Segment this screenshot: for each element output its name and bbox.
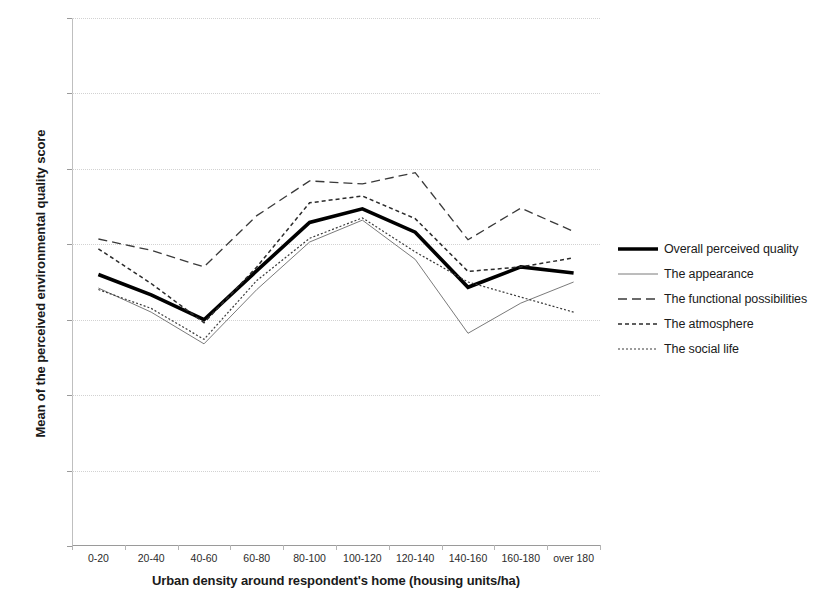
x-tick-label: over 180 xyxy=(534,552,614,564)
legend-item[interactable]: The functional possibilities xyxy=(618,286,833,311)
legend-label: The functional possibilities xyxy=(664,292,807,306)
series-lines xyxy=(72,18,600,546)
chart-figure: Mean of the perceived environmental qual… xyxy=(0,0,833,601)
legend-line-swatch-icon xyxy=(618,243,658,255)
legend-line-swatch-icon xyxy=(618,293,658,305)
legend-item[interactable]: The social life xyxy=(618,336,833,361)
series-line xyxy=(98,173,573,267)
legend-label: Overall perceived quality xyxy=(664,242,798,256)
legend-item[interactable]: The atmosphere xyxy=(618,311,833,336)
chart-legend: Overall perceived qualityThe appearanceT… xyxy=(618,236,833,361)
legend-line-swatch-icon xyxy=(618,318,658,330)
legend-item[interactable]: Overall perceived quality xyxy=(618,236,833,261)
legend-item[interactable]: The appearance xyxy=(618,261,833,286)
legend-label: The social life xyxy=(664,342,739,356)
x-tick-mark xyxy=(600,545,601,550)
legend-line-swatch-icon xyxy=(618,268,658,280)
series-line xyxy=(98,209,573,320)
legend-label: The atmosphere xyxy=(664,317,754,331)
series-line xyxy=(98,218,573,339)
legend-line-swatch-icon xyxy=(618,343,658,355)
x-axis-title: Urban density around respondent's home (… xyxy=(72,573,600,588)
y-axis-title: Mean of the perceived environmental qual… xyxy=(33,74,48,494)
legend-label: The appearance xyxy=(664,267,754,281)
plot-area: 30405060708090100 0-2020-4040-6060-8080-… xyxy=(72,18,600,546)
series-line xyxy=(98,220,573,344)
